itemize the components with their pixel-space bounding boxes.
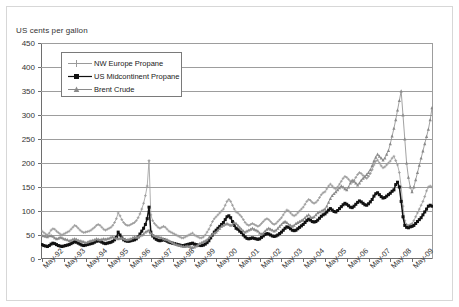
y-axis-tick-mark [38, 163, 41, 164]
legend-marker-square-icon [67, 71, 93, 82]
legend-label: NW Europe Propane [93, 59, 163, 68]
y-axis-tick-mark [38, 187, 41, 188]
y-axis-tick-mark [38, 91, 41, 92]
y-axis-tick-label: 200 [5, 159, 35, 168]
y-axis-tick-mark [38, 43, 41, 44]
legend-item-nw-europe-propane: NW Europe Propane [67, 57, 176, 70]
legend-item-brent-crude: Brent Crude [67, 83, 176, 96]
y-axis-unit-label: US cents per gallon [16, 26, 88, 35]
y-axis-tick-mark [38, 139, 41, 140]
legend-marker-plus-icon [67, 58, 93, 69]
y-axis-tick-label: 300 [5, 111, 35, 120]
y-axis-tick-label: 100 [5, 207, 35, 216]
y-axis-tick-mark [38, 211, 41, 212]
y-axis-tick-label: 450 [5, 39, 35, 48]
legend-item-us-midcontinent-propane: US Midcontinent Propane [67, 70, 176, 83]
y-axis-tick-label: 400 [5, 63, 35, 72]
y-axis-tick-label: 250 [5, 135, 35, 144]
legend-marker-triangle-icon [67, 84, 93, 95]
y-axis-tick-mark [38, 115, 41, 116]
y-axis-tick-label: 50 [5, 231, 35, 240]
legend-label: Brent Crude [93, 85, 134, 94]
y-axis-tick-label: 0 [5, 255, 35, 264]
y-axis-tick-mark [38, 67, 41, 68]
legend-label: US Midcontinent Propane [93, 72, 179, 81]
y-axis-tick-mark [38, 235, 41, 236]
chart-legend: NW Europe Propane US Midcontinent Propan… [61, 52, 182, 97]
y-axis-tick-label: 150 [5, 183, 35, 192]
y-axis-tick-label: 350 [5, 87, 35, 96]
y-axis-tick-mark [38, 259, 41, 260]
chart-figure: US cents per gallon 05010015020025030035… [0, 0, 459, 307]
